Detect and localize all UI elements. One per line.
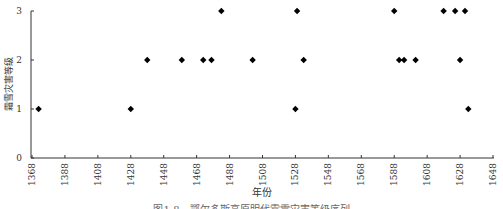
data-point-diamond-icon bbox=[292, 106, 298, 112]
data-point-diamond-icon bbox=[465, 106, 471, 112]
data-point-diamond-icon bbox=[457, 57, 463, 63]
x-tick-label: 1408 bbox=[93, 163, 103, 186]
data-point-diamond-icon bbox=[200, 57, 206, 63]
data-point-diamond-icon bbox=[452, 8, 458, 14]
x-tick-label: 1368 bbox=[27, 163, 37, 186]
data-point-diamond-icon bbox=[179, 57, 185, 63]
data-point-diamond-icon bbox=[440, 8, 446, 14]
x-tick-label: 1528 bbox=[290, 163, 300, 186]
y-tick-label: 0 bbox=[16, 153, 22, 163]
x-tick-label: 1608 bbox=[422, 163, 432, 186]
data-point-diamond-icon bbox=[208, 57, 214, 63]
y-axis-title: 霜雪灾害等级 bbox=[3, 57, 14, 111]
data-point-diamond-icon bbox=[401, 57, 407, 63]
data-point-diamond-icon bbox=[294, 8, 300, 14]
figure-caption: 图1-8 鄂尔多斯高原明代霜雪灾害等级序列 bbox=[0, 201, 503, 209]
y-tick-label: 3 bbox=[16, 6, 22, 16]
x-tick-label: 1428 bbox=[126, 163, 136, 186]
data-point-diamond-icon bbox=[144, 57, 150, 63]
data-point-diamond-icon bbox=[391, 8, 397, 14]
y-tick-label: 1 bbox=[16, 104, 22, 114]
axes bbox=[31, 11, 494, 158]
x-tick-label: 1468 bbox=[192, 163, 202, 186]
data-points bbox=[35, 8, 471, 112]
data-point-diamond-icon bbox=[462, 8, 468, 14]
x-tick-label: 1508 bbox=[258, 163, 268, 186]
x-tick-label: 1568 bbox=[356, 163, 366, 186]
data-point-diamond-icon bbox=[35, 106, 41, 112]
x-ticks: 1368138814081428144814681488150815281548… bbox=[27, 155, 498, 186]
x-tick-label: 1648 bbox=[488, 163, 498, 186]
x-tick-label: 1388 bbox=[60, 163, 70, 186]
y-tick-label: 2 bbox=[16, 55, 22, 65]
x-axis-title: 年份 bbox=[252, 186, 272, 198]
x-tick-label: 1548 bbox=[323, 163, 333, 186]
x-tick-label: 1628 bbox=[455, 163, 465, 186]
data-point-diamond-icon bbox=[300, 57, 306, 63]
x-tick-label: 1488 bbox=[225, 163, 235, 186]
data-point-diamond-icon bbox=[249, 57, 255, 63]
data-point-diamond-icon bbox=[218, 8, 224, 14]
x-tick-label: 1448 bbox=[159, 163, 169, 186]
data-point-diamond-icon bbox=[412, 57, 418, 63]
data-point-diamond-icon bbox=[128, 106, 134, 112]
scatter-chart: 0123 13681388140814281448146814881508152… bbox=[0, 0, 503, 209]
x-tick-label: 1588 bbox=[389, 163, 399, 186]
